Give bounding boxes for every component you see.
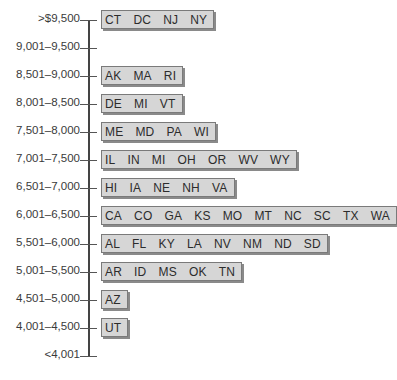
state-abbreviation: NJ xyxy=(163,13,178,27)
state-abbreviation: NE xyxy=(153,181,170,195)
state-group-box: DEMIVT xyxy=(101,94,183,113)
state-abbreviation: UT xyxy=(105,321,121,335)
state-group-box: ILINMIOHORWVWY xyxy=(101,150,297,169)
state-group-box: AZ xyxy=(101,290,128,309)
state-abbreviation: TX xyxy=(343,209,359,223)
state-abbreviation: KY xyxy=(158,237,174,251)
chart-row: >$9,500CTDCNJNY xyxy=(0,9,371,31)
state-abbreviation: HI xyxy=(105,181,117,195)
state-abbreviation: SC xyxy=(314,209,331,223)
state-abbreviation: MI xyxy=(152,153,166,167)
state-abbreviation: ND xyxy=(274,237,292,251)
state-abbreviation: CT xyxy=(105,13,121,27)
state-abbreviation: MT xyxy=(254,209,272,223)
state-abbreviation: DE xyxy=(105,97,122,111)
state-abbreviation: MD xyxy=(135,125,154,139)
state-group-box: MEMDPAWI xyxy=(101,122,216,141)
range-label: 6,501–7,000 xyxy=(16,180,80,192)
state-abbreviation: VT xyxy=(160,97,176,111)
axis-tick xyxy=(80,188,97,189)
state-abbreviation: IN xyxy=(127,153,139,167)
state-abbreviation: LA xyxy=(187,237,202,251)
state-abbreviation: FL xyxy=(132,237,146,251)
range-label: <4,001 xyxy=(45,348,81,360)
state-abbreviation: MO xyxy=(223,209,243,223)
state-abbreviation: GA xyxy=(164,209,182,223)
state-group-box: ARIDMSOKTN xyxy=(101,262,242,281)
range-label: 4,501–5,000 xyxy=(16,292,80,304)
state-abbreviation: NH xyxy=(182,181,200,195)
state-group-box: AKMARI xyxy=(101,66,183,85)
range-label: 8,501–9,000 xyxy=(16,68,80,80)
state-abbreviation: NM xyxy=(243,237,262,251)
range-label: 5,501–6,000 xyxy=(16,236,80,248)
state-abbreviation: AR xyxy=(105,265,122,279)
axis-tick xyxy=(80,104,97,105)
range-label: 6,001–6,500 xyxy=(16,208,80,220)
state-abbreviation: IA xyxy=(129,181,141,195)
axis-tick xyxy=(80,300,97,301)
state-abbreviation: DC xyxy=(133,13,151,27)
state-abbreviation: SD xyxy=(304,237,321,251)
chart-row: 7,501–8,000MEMDPAWI xyxy=(0,121,371,143)
state-abbreviation: AZ xyxy=(105,293,121,307)
axis-tick xyxy=(80,244,97,245)
chart-row: 5,501–6,000ALFLKYLANVNMNDSD xyxy=(0,233,371,255)
state-abbreviation: IL xyxy=(105,153,115,167)
range-label: 7,001–7,500 xyxy=(16,152,80,164)
state-abbreviation: NC xyxy=(284,209,302,223)
chart-row: 4,501–5,000AZ xyxy=(0,289,371,311)
state-abbreviation: ME xyxy=(105,125,123,139)
chart-row: 4,001–4,500UT xyxy=(0,317,371,339)
state-abbreviation: WI xyxy=(194,125,209,139)
chart-row: 6,501–7,000HIIANENHVA xyxy=(0,177,371,199)
axis-tick xyxy=(80,160,97,161)
range-label: 7,501–8,000 xyxy=(16,124,80,136)
range-label: 8,001–8,500 xyxy=(16,96,80,108)
chart-row: 5,001–5,500ARIDMSOKTN xyxy=(0,261,371,283)
state-abbreviation: ID xyxy=(134,265,146,279)
state-group-box: CACOGAKSMOMTNCSCTXWA xyxy=(101,206,397,225)
state-abbreviation: PA xyxy=(166,125,182,139)
axis-tick xyxy=(80,216,97,217)
state-group-box: CTDCNJNY xyxy=(101,10,214,29)
state-abbreviation: WA xyxy=(371,209,390,223)
state-abbreviation: CA xyxy=(105,209,122,223)
state-abbreviation: CO xyxy=(134,209,152,223)
state-abbreviation: RI xyxy=(164,69,176,83)
state-abbreviation: KS xyxy=(194,209,210,223)
state-abbreviation: NV xyxy=(214,237,231,251)
range-label: 4,001–4,500 xyxy=(16,320,80,332)
state-abbreviation: OK xyxy=(189,265,207,279)
state-abbreviation: OR xyxy=(208,153,226,167)
chart-row: 6,001–6,500CACOGAKSMOMTNCSCTXWA xyxy=(0,205,371,227)
state-abbreviation: MS xyxy=(158,265,176,279)
state-group-box: HIIANENHVA xyxy=(101,178,235,197)
state-abbreviation: MA xyxy=(133,69,151,83)
state-abbreviation: AK xyxy=(105,69,121,83)
range-label: >$9,500 xyxy=(38,12,80,24)
axis-tick xyxy=(80,48,97,49)
state-group-box: ALFLKYLANVNMNDSD xyxy=(101,234,328,253)
state-abbreviation: VA xyxy=(212,181,228,195)
chart-row: 8,501–9,000AKMARI xyxy=(0,65,371,87)
state-abbreviation: TN xyxy=(219,265,235,279)
axis-tick xyxy=(80,132,97,133)
axis-tick xyxy=(80,356,97,357)
state-abbreviation: WV xyxy=(238,153,258,167)
chart-row: 7,001–7,500ILINMIOHORWVWY xyxy=(0,149,371,171)
range-label: 9,001–9,500 xyxy=(16,40,80,52)
state-abbreviation: AL xyxy=(105,237,120,251)
axis-tick xyxy=(80,328,97,329)
chart-row: 9,001–9,500 xyxy=(0,37,371,59)
state-abbreviation: OH xyxy=(178,153,196,167)
state-abbreviation: MI xyxy=(134,97,148,111)
chart-row: 8,001–8,500DEMIVT xyxy=(0,93,371,115)
axis-tick xyxy=(80,272,97,273)
state-abbreviation: WY xyxy=(270,153,290,167)
axis-tick xyxy=(80,76,97,77)
state-abbreviation: NY xyxy=(190,13,207,27)
chart-row: <4,001 xyxy=(0,345,371,367)
state-group-box: UT xyxy=(101,318,128,337)
